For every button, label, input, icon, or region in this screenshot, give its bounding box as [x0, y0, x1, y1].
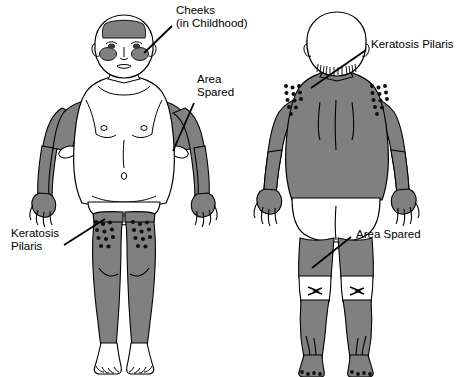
anterior-figure [30, 15, 217, 374]
posterior-popliteal-spared [299, 276, 373, 302]
cheek-patch-left [100, 48, 117, 61]
anterior-head [92, 15, 156, 78]
anterior-legs-affected [93, 212, 156, 346]
body-diagram-svg [0, 0, 469, 377]
posterior-calves-affected [300, 300, 372, 358]
posterior-thighs-affected [299, 238, 374, 278]
posterior-back-affected [286, 70, 389, 200]
label-area-spared-top-line2: Spared [197, 86, 234, 98]
cheek-patch-right [132, 48, 149, 61]
posterior-figure [254, 12, 419, 377]
label-area-spared-top-line1: Area [197, 73, 221, 85]
forehead-hairband-affected [102, 20, 145, 38]
label-area-spared-top: AreaSpared [197, 73, 234, 98]
label-keratosis-pilaris-left: KeratosisPilaris [11, 227, 59, 252]
posterior-feet-affected [299, 355, 374, 377]
illustration-canvas: Cheeks(in Childhood) Keratosis Pilaris A… [0, 0, 469, 377]
label-cheeks-line2: (in Childhood) [176, 17, 248, 29]
label-keratosis-pilaris-left-line2: Pilaris [11, 240, 42, 252]
label-cheeks-line1: Cheeks [176, 4, 215, 16]
anterior-feet-spared [94, 343, 154, 374]
posterior-head-spared [304, 12, 369, 76]
label-cheeks: Cheeks(in Childhood) [176, 4, 248, 29]
label-keratosis-pilaris-right: Keratosis Pilaris [371, 38, 453, 51]
label-keratosis-pilaris-left-line1: Keratosis [11, 227, 59, 239]
label-area-spared-bottom: Area Spared [356, 228, 421, 241]
